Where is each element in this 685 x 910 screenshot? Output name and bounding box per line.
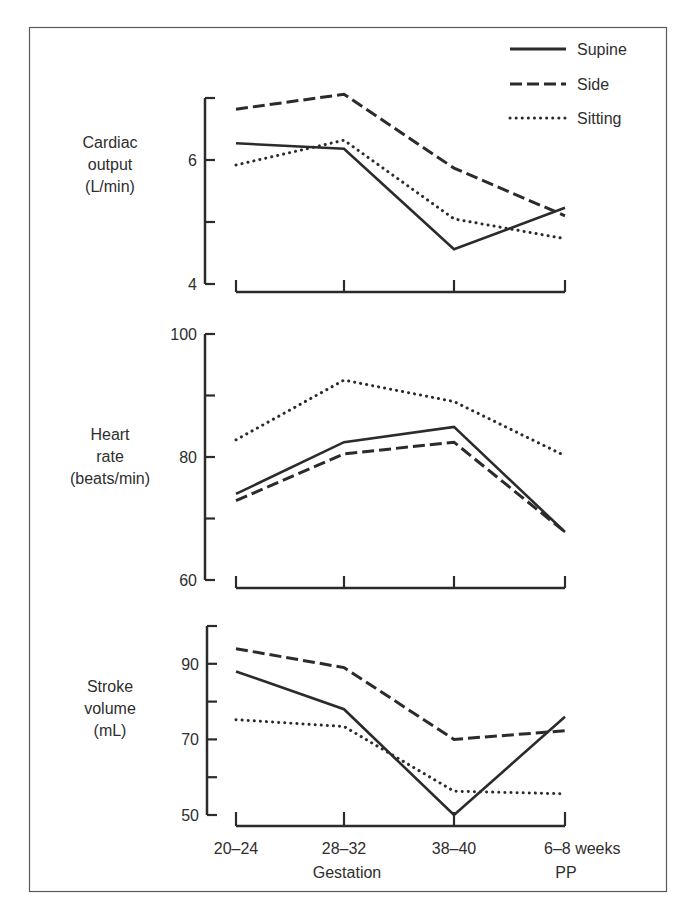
y-axis-title: (beats/min): [70, 470, 150, 487]
y-axis-title: output: [88, 156, 133, 173]
y-tick-label: 90: [181, 656, 199, 673]
y-axis-title: Stroke: [87, 678, 133, 695]
y-axis-title: volume: [84, 700, 136, 717]
y-tick-label: 80: [179, 449, 197, 466]
x-tick-label: 28–32: [322, 840, 367, 857]
figure: Supine Side Sitting 46Cardiacoutput(L/mi…: [0, 0, 685, 910]
y-axis-title: (L/min): [85, 178, 135, 195]
x-tick-label: 6–8 weeks: [544, 840, 621, 857]
x-tick-label: 38–40: [432, 840, 477, 857]
y-tick-label: 50: [181, 807, 199, 824]
y-tick-label: 60: [179, 572, 197, 589]
x-axis-title-gestation: Gestation: [313, 864, 381, 881]
legend-label: Sitting: [577, 110, 621, 127]
legend-label: Supine: [577, 41, 627, 58]
y-tick-label: 4: [188, 276, 197, 293]
y-tick-label: 6: [188, 152, 197, 169]
legend-label: Side: [577, 76, 609, 93]
x-axis-title-pp: PP: [555, 864, 576, 881]
y-tick-label: 100: [170, 326, 197, 343]
x-tick-label: 20–24: [214, 840, 259, 857]
y-axis-title: (mL): [94, 722, 127, 739]
y-tick-label: 70: [181, 731, 199, 748]
y-axis-title: rate: [96, 448, 124, 465]
y-axis-title: Cardiac: [82, 134, 137, 151]
y-axis-title: Heart: [90, 426, 130, 443]
